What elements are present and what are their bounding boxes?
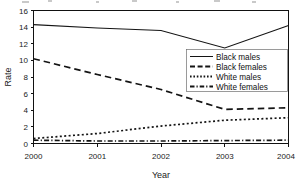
x-axis-tick-labels: 2000 2001 2002 2003 2004	[25, 152, 296, 161]
x-tick-label: 2000	[25, 152, 43, 161]
legend: Black males Black females White males Wh…	[187, 50, 288, 92]
legend-label-black-males: Black males	[216, 53, 260, 62]
legend-label-black-females: Black females	[216, 63, 267, 72]
y-tick-label: 2	[24, 123, 29, 132]
y-tick-label: 4	[24, 106, 29, 115]
chart-figure: 0 2 4 6 8 10 12 14 16 2000 2001 2002 200…	[0, 0, 297, 187]
x-tick-label: 2001	[88, 152, 106, 161]
line-chart: 0 2 4 6 8 10 12 14 16 2000 2001 2002 200…	[0, 0, 297, 187]
x-tick-label: 2002	[152, 152, 170, 161]
y-tick-label: 16	[19, 7, 28, 16]
y-tick-label: 12	[19, 40, 28, 49]
series-line-white-males	[34, 118, 289, 139]
y-axis-tick-labels: 0 2 4 6 8 10 12 14 16	[19, 7, 28, 149]
y-tick-label: 0	[24, 140, 29, 149]
x-tick-label: 2004	[277, 152, 295, 161]
x-tick-label: 2003	[216, 152, 234, 161]
top-crop-artifacts	[22, 0, 256, 3]
y-tick-label: 6	[24, 90, 29, 99]
y-axis-title: Rate	[3, 67, 13, 86]
x-axis-ticks	[34, 144, 289, 148]
series-line-white-females	[34, 140, 289, 141]
x-axis-title: Year	[152, 170, 170, 180]
legend-label-white-females: White females	[216, 83, 268, 92]
y-tick-label: 10	[19, 56, 28, 65]
y-tick-label: 14	[19, 23, 28, 32]
legend-label-white-males: White males	[216, 73, 261, 82]
y-tick-label: 8	[24, 73, 29, 82]
series-line-black-males	[34, 25, 289, 48]
